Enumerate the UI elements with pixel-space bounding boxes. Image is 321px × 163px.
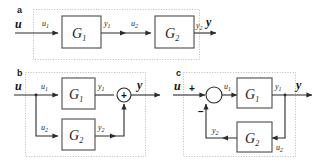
panel-b-label-u2: u2 — [41, 123, 48, 133]
panel-c-label-u2: u2 — [276, 143, 283, 153]
panel-a-output-y: y — [204, 15, 212, 29]
panel-c-wire-feedback-tap — [272, 95, 285, 138]
panel-c-summing-junction — [206, 87, 222, 103]
panel-c-wire-feedback-return — [206, 104, 237, 138]
panel-b-output-y: y — [135, 78, 143, 92]
panel-a-label-u2: u2 — [131, 19, 138, 29]
panel-b-label-y1: y1 — [97, 82, 105, 92]
block-diagram-svg: a u u1 G1 y1 u2 — [0, 0, 321, 163]
panel-c-label-y1: y1 — [274, 82, 282, 92]
panel-c-label: c — [176, 68, 181, 78]
panel-a-label: a — [17, 5, 23, 15]
panel-c-feedback-node — [284, 94, 287, 97]
panel-b-input-u: u — [15, 79, 22, 93]
panel-c-label-u1: u1 — [224, 82, 231, 92]
panel-a-label-y1: y1 — [103, 19, 111, 29]
panel-c-input-u: u — [174, 79, 181, 93]
panel-c-junction-minus: − — [198, 106, 204, 117]
panel-c-junction-plus: + — [189, 83, 195, 94]
panel-a-input-u: u — [15, 17, 22, 31]
panel-a: a u u1 G1 y1 u2 — [15, 5, 216, 60]
panel-b-label-y2: y2 — [97, 123, 105, 133]
panel-b-label: b — [17, 68, 23, 78]
panel-b-arrow-g2-out — [110, 133, 116, 138]
panel-a-arrow-mid — [120, 30, 126, 35]
panel-c-label-y2: y2 — [211, 126, 219, 136]
panel-b-split-node — [35, 94, 38, 97]
panel-c-arrow-feedback — [222, 135, 228, 140]
panel-a-label-u1: u1 — [42, 19, 49, 29]
panel-b: b u u1 u2 G1 G2 — [14, 68, 160, 157]
panel-c-output-y: y — [294, 78, 302, 92]
panel-c: c u + − u1 G1 y1 y — [173, 68, 312, 157]
panel-a-label-y2: y2 — [195, 21, 203, 31]
panel-b-label-u1: u1 — [41, 82, 48, 92]
panel-b-junction-plus: + — [121, 90, 127, 101]
figure-canvas: a u u1 G1 y1 u2 — [0, 0, 321, 163]
